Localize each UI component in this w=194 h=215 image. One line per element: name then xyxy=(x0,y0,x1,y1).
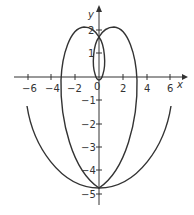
svg-text:6: 6 xyxy=(167,83,173,94)
svg-text:x: x xyxy=(176,79,183,90)
svg-text:−4: −4 xyxy=(45,83,60,94)
svg-text:−6: −6 xyxy=(22,83,37,94)
svg-text:−3: −3 xyxy=(81,142,96,153)
svg-text:−5: −5 xyxy=(81,189,96,200)
svg-text:−2: −2 xyxy=(67,83,82,94)
svg-text:−1: −1 xyxy=(81,95,96,106)
svg-text:4: 4 xyxy=(144,83,150,94)
svg-text:−4: −4 xyxy=(81,165,96,176)
y-axis xyxy=(96,5,102,205)
svg-text:y: y xyxy=(87,9,95,20)
chart: −6 −4 −2 0 2 4 6 x 2 1 −1 −2 −3 −4 −5 y xyxy=(0,0,194,215)
svg-text:0: 0 xyxy=(94,81,100,92)
svg-text:−2: −2 xyxy=(81,119,96,130)
svg-text:2: 2 xyxy=(120,83,126,94)
